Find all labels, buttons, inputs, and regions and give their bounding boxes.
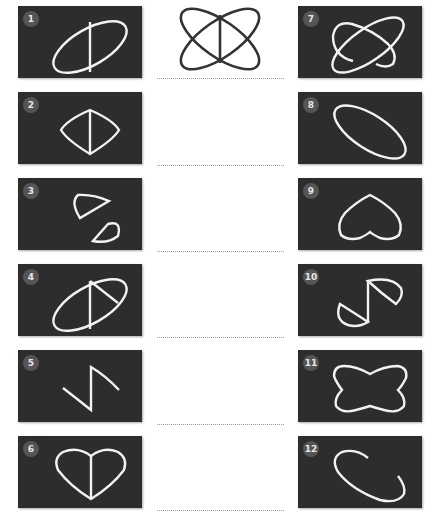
option-number-badge: 2 <box>23 97 39 113</box>
option-panel-4[interactable]: 4 <box>18 264 142 336</box>
option-number-badge: 10 <box>303 269 319 285</box>
option-number-badge: 11 <box>303 355 319 371</box>
option-panel-2[interactable]: 2 <box>18 92 142 164</box>
option-panel-10[interactable]: 10 <box>298 264 422 336</box>
option-panel-5[interactable]: 5 <box>18 350 142 422</box>
answer-line-6[interactable] <box>157 510 284 511</box>
answer-line-1[interactable] <box>157 78 284 79</box>
option-number-badge: 7 <box>303 11 319 27</box>
answer-line-4[interactable] <box>157 337 284 338</box>
answer-line-3[interactable] <box>157 251 284 252</box>
option-number-badge: 8 <box>303 97 319 113</box>
option-number-badge: 5 <box>23 355 39 371</box>
option-number-badge: 1 <box>23 11 39 27</box>
answer-line-2[interactable] <box>157 165 284 166</box>
option-number-badge: 9 <box>303 183 319 199</box>
option-panel-12[interactable]: 12 <box>298 436 422 508</box>
option-panel-9[interactable]: 9 <box>298 178 422 250</box>
option-number-badge: 12 <box>303 441 319 457</box>
target-figure <box>165 6 275 72</box>
option-number-badge: 6 <box>23 441 39 457</box>
option-panel-7[interactable]: 7 <box>298 6 422 78</box>
option-panel-11[interactable]: 11 <box>298 350 422 422</box>
option-number-badge: 3 <box>23 183 39 199</box>
option-panel-6[interactable]: 6 <box>18 436 142 508</box>
option-number-badge: 4 <box>23 269 39 285</box>
option-panel-3[interactable]: 3 <box>18 178 142 250</box>
answer-line-5[interactable] <box>157 424 284 425</box>
option-panel-1[interactable]: 1 <box>18 6 142 78</box>
option-panel-8[interactable]: 8 <box>298 92 422 164</box>
